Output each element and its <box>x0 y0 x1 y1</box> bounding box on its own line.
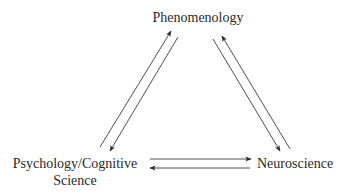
diagram-canvas: Phenomenology Psychology/Cognitive Scien… <box>0 0 354 194</box>
node-phenomenology-label: Phenomenology <box>153 10 244 25</box>
arrow-neuroscience-to-phenomenology <box>222 36 290 149</box>
node-psychology-label-line2: Science <box>5 172 145 189</box>
node-neuroscience-label: Neuroscience <box>257 156 333 171</box>
arrow-phenomenology-to-neuroscience <box>213 39 280 151</box>
arrow-phenomenology-to-psychology <box>110 37 178 151</box>
node-neuroscience: Neuroscience <box>257 155 337 172</box>
node-phenomenology: Phenomenology <box>150 9 246 26</box>
node-psychology-label-line1: Psychology/Cognitive <box>5 155 145 172</box>
arrow-psychology-to-phenomenology <box>100 31 171 147</box>
node-psychology-cognitive-science: Psychology/Cognitive Science <box>5 155 145 189</box>
